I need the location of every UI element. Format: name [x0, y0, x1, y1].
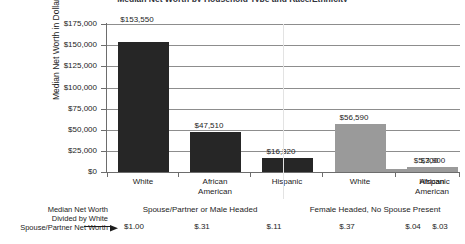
x-category-label-white-spouse: White: [108, 177, 178, 187]
y-tick-label-0: $0: [33, 168, 97, 176]
x-axis-tick: [250, 172, 251, 177]
bar-value-label-hispanic-female: $3,900: [404, 157, 462, 165]
ratio-caption-line-2: Divided by White: [0, 214, 108, 223]
ratio-value-hispanic-spouse: $.11: [253, 222, 295, 231]
x-axis-tick: [395, 172, 396, 177]
x-category-label-african-american-spouse: African American: [180, 177, 250, 196]
x-axis-tick: [322, 172, 323, 177]
y-tick-label-75000: $75,000: [33, 105, 97, 113]
x-category-label-hispanic-female: Hispanic: [404, 177, 465, 187]
chart-title: Median Net Worth by Household Type and R…: [0, 0, 465, 2]
group-divider: [283, 24, 284, 199]
group-header-female-headed-no-spouse: Female Headed, No Spouse Present: [285, 205, 465, 214]
x-category-label-white-female: White: [325, 177, 395, 187]
y-tick-label-175000: $175,000: [33, 20, 97, 28]
ratio-caption-line-1: Median Net Worth: [0, 205, 108, 214]
y-tick-label-125000: $125,000: [33, 62, 97, 70]
bar-value-label-hispanic-spouse: $16,320: [252, 148, 310, 156]
y-axis-title: Median Net Worth in Dollars: [51, 0, 61, 122]
ratio-value-african-american-spouse: $.31: [181, 222, 223, 231]
bar-white-spouse[interactable]: [118, 42, 169, 172]
y-tick-label-25000: $25,000: [33, 147, 97, 155]
bar-value-label-white-spouse: $153,550: [108, 16, 166, 24]
y-tick-label-100000: $100,000: [33, 84, 97, 92]
x-axis-tick: [178, 172, 179, 177]
bar-white-female[interactable]: [335, 124, 386, 172]
bar-hispanic-spouse[interactable]: [262, 158, 313, 172]
ratio-value-hispanic-female: $.03: [419, 222, 461, 231]
ratio-value-white-spouse: $1.00: [113, 222, 155, 231]
ratio-value-white-female: $.37: [326, 222, 368, 231]
y-tick-label-150000: $150,000: [33, 41, 97, 49]
y-tick-label-50000: $50,000: [33, 126, 97, 134]
bar-hispanic-female[interactable]: [379, 169, 430, 172]
bar-value-label-african-american-spouse: $47,510: [180, 122, 238, 130]
group-header-spouse-partner-male-headed: Spouse/Partner or Male Headed: [115, 205, 285, 214]
x-category-label-hispanic-spouse: Hispanic: [252, 177, 322, 187]
bar-value-label-white-female: $56,590: [325, 114, 383, 122]
bar-african-american-spouse[interactable]: [190, 132, 241, 172]
